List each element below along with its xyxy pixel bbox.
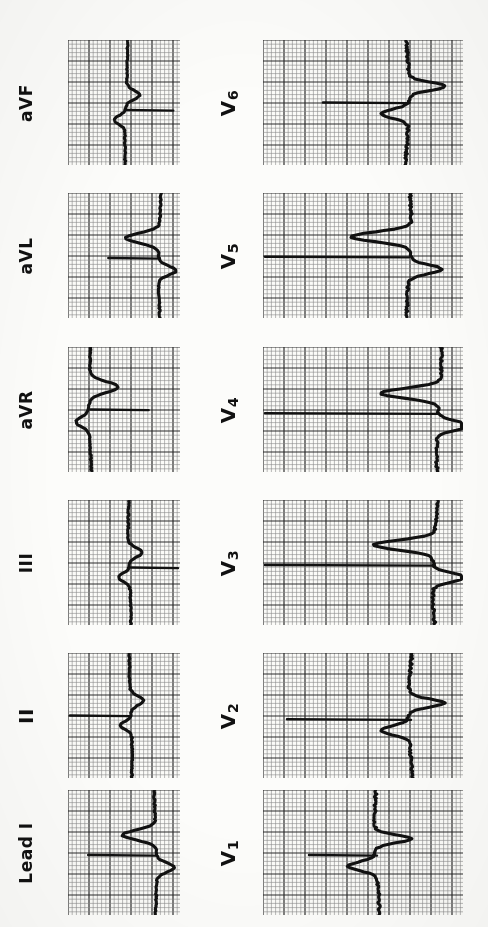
lead-label-text: III xyxy=(16,552,36,572)
lead-label-text: V xyxy=(216,407,240,423)
ecg-waveform-v3 xyxy=(263,500,463,625)
lead-cell-iii xyxy=(68,500,180,625)
ecg-waveform-lead-i xyxy=(68,790,180,915)
lead-cell-avf xyxy=(68,40,180,165)
ecg-panel-avl xyxy=(68,193,180,318)
ecg-panel-v6 xyxy=(263,40,463,165)
ecg-waveform-avf xyxy=(68,40,180,165)
lead-cell-lead-i xyxy=(68,790,180,915)
lead-label-v3: V3 xyxy=(213,508,243,618)
lead-label-ii: II xyxy=(11,661,41,771)
ecg-panel-avr xyxy=(68,347,180,472)
lead-label-subscript: 1 xyxy=(225,839,241,850)
ecg-waveform-v1 xyxy=(263,790,463,915)
lead-label-iii: III xyxy=(11,508,41,618)
lead-label-subscript: 3 xyxy=(225,549,241,560)
lead-cell-v5 xyxy=(263,193,463,318)
lead-label-subscript: 6 xyxy=(225,89,241,100)
lead-cell-ii xyxy=(68,653,180,778)
ecg-panel-lead-i xyxy=(68,790,180,915)
ecg-panel-v3 xyxy=(263,500,463,625)
lead-label-avr: aVR xyxy=(11,355,41,465)
ecg-panel-v1 xyxy=(263,790,463,915)
lead-label-text: aVL xyxy=(16,237,36,274)
lead-label-v4: V4 xyxy=(213,355,243,465)
lead-cell-v2 xyxy=(263,653,463,778)
lead-cell-v3 xyxy=(263,500,463,625)
ecg-waveform-v6 xyxy=(263,40,463,165)
lead-label-text: V xyxy=(216,253,240,269)
lead-label-text: II xyxy=(14,708,38,724)
ecg-panel-v4 xyxy=(263,347,463,472)
lead-cell-v4 xyxy=(263,347,463,472)
lead-label-text: aVR xyxy=(16,390,36,429)
lead-label-text: V xyxy=(216,850,240,866)
ecg-waveform-ii xyxy=(68,653,180,778)
ecg-panel-iii xyxy=(68,500,180,625)
lead-label-subscript: 5 xyxy=(225,242,241,253)
lead-label-text: aVF xyxy=(16,84,36,122)
ecg-panel-v5 xyxy=(263,193,463,318)
ecg-waveform-v2 xyxy=(263,653,463,778)
lead-label-text: V xyxy=(216,560,240,576)
lead-cell-avl xyxy=(68,193,180,318)
ecg-panel-ii xyxy=(68,653,180,778)
lead-label-subscript: 2 xyxy=(225,702,241,713)
lead-label-text: Lead I xyxy=(16,822,36,883)
ecg-sheet: aVF aVL aVR III II Lead I V6 V5 V4 V3 V2… xyxy=(0,0,488,927)
lead-label-text: V xyxy=(216,100,240,116)
lead-label-v6: V6 xyxy=(213,48,243,158)
ecg-waveform-v4 xyxy=(263,347,463,472)
ecg-waveform-avr xyxy=(68,347,180,472)
lead-label-subscript: 4 xyxy=(225,396,241,407)
lead-cell-v1 xyxy=(263,790,463,915)
ecg-waveform-avl xyxy=(68,193,180,318)
lead-label-avf: aVF xyxy=(11,48,41,158)
ecg-panel-v2 xyxy=(263,653,463,778)
lead-label-v2: V2 xyxy=(213,661,243,771)
lead-label-v1: V1 xyxy=(213,798,243,908)
ecg-waveform-iii xyxy=(68,500,180,625)
lead-label-lead-i: Lead I xyxy=(11,798,41,908)
lead-cell-v6 xyxy=(263,40,463,165)
lead-label-v5: V5 xyxy=(213,201,243,311)
lead-label-text: V xyxy=(216,713,240,729)
lead-cell-avr xyxy=(68,347,180,472)
ecg-panel-avf xyxy=(68,40,180,165)
lead-label-avl: aVL xyxy=(11,201,41,311)
ecg-waveform-v5 xyxy=(263,193,463,318)
